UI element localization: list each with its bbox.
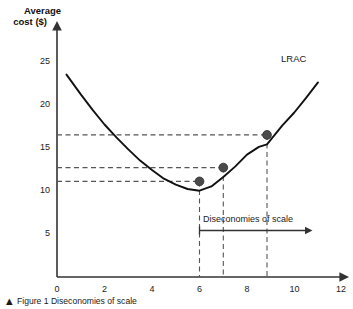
y-tick-label: 20 [40, 99, 50, 109]
x-tick-label: 8 [244, 284, 249, 294]
y-tick-label: 25 [40, 56, 50, 66]
data-point-marker [263, 131, 272, 140]
y-tick-labels: 25 20 15 10 5 [40, 56, 50, 238]
x-tick-label: 6 [197, 284, 202, 294]
data-point-marker [195, 177, 204, 186]
x-tick-label: 12 [336, 284, 346, 294]
y-tick-label: 15 [40, 142, 50, 152]
y-tick-label: 5 [45, 228, 50, 238]
figure-container: Average cost ($) 25 20 15 10 5 0 2 4 6 8… [0, 0, 353, 309]
y-axis-title-line2: cost ($) [13, 16, 47, 27]
data-point-marker [219, 163, 228, 172]
x-tick-label: 0 [54, 284, 59, 294]
lrac-series-label: LRAC [281, 53, 306, 64]
average-cost-lrac-chart: Average cost ($) 25 20 15 10 5 0 2 4 6 8… [0, 0, 353, 309]
y-axis-title-line1: Average [24, 5, 61, 16]
caption-triangle-icon: ▲ [6, 296, 13, 306]
figure-caption: Figure 1 Diseconomies of scale [17, 296, 137, 306]
diseconomies-annotation-label: Diseconomies of scale [203, 214, 293, 224]
x-tick-label: 4 [149, 284, 154, 294]
x-tick-labels: 0 2 4 6 8 10 12 [54, 284, 346, 294]
x-tick-label: 10 [289, 284, 299, 294]
x-tick-label: 2 [102, 284, 107, 294]
y-tick-label: 10 [40, 185, 50, 195]
